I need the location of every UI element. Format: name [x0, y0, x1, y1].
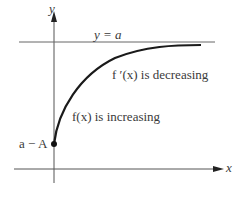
derivative-annotation: f ′(x) is decreasing — [112, 68, 208, 82]
y-axis-label: y — [49, 2, 55, 16]
function-curve — [54, 45, 201, 144]
function-graph: y x y = a f ′(x) is decreasing f(x) is i… — [0, 0, 243, 203]
x-axis-label: x — [226, 161, 232, 175]
start-point-label: a − A — [19, 137, 47, 151]
x-axis-arrow-icon — [213, 166, 224, 172]
start-point-dot — [51, 141, 57, 147]
asymptote-label: y = a — [94, 28, 122, 42]
function-annotation: f(x) is increasing — [72, 110, 160, 124]
